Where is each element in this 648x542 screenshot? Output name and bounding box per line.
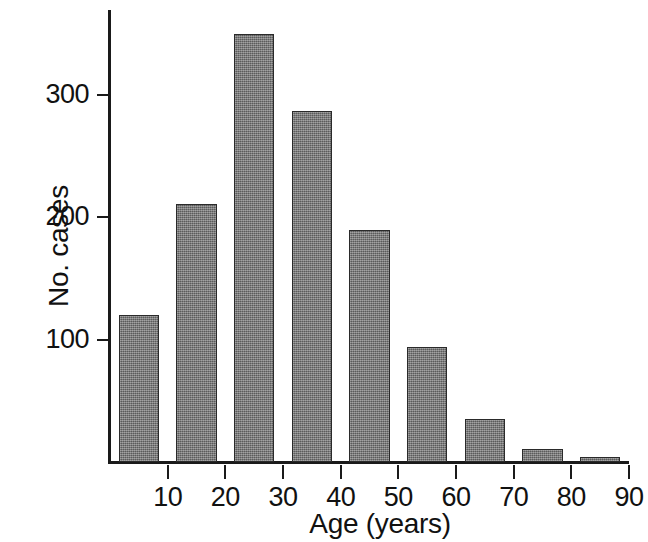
x-axis-tick-label: 80 — [543, 484, 599, 511]
bar — [292, 111, 332, 462]
x-axis-tick — [455, 465, 457, 479]
x-axis-tick — [224, 465, 226, 479]
y-axis-tick-label: 100 — [29, 326, 89, 353]
x-axis-tick — [282, 465, 284, 479]
x-axis-tick — [397, 465, 399, 479]
x-axis-tick — [628, 465, 630, 479]
bar — [407, 347, 447, 462]
y-axis-tick — [97, 339, 110, 341]
x-axis-tick — [570, 465, 572, 479]
x-axis-tick — [340, 465, 342, 479]
y-axis-tick — [97, 94, 110, 96]
x-axis-tick — [167, 465, 169, 479]
y-axis-tick-label: 300 — [29, 81, 89, 108]
x-axis-tick-label: 30 — [255, 484, 311, 511]
bar — [176, 204, 216, 462]
bar — [580, 457, 620, 462]
x-axis-tick-label: 20 — [197, 484, 253, 511]
x-axis-tick-label: 60 — [428, 484, 484, 511]
bar — [349, 230, 389, 462]
bar — [522, 449, 562, 462]
x-axis-tick-label: 10 — [140, 484, 196, 511]
x-axis-title: Age (years) — [215, 510, 545, 538]
x-axis-tick-label: 50 — [370, 484, 426, 511]
y-axis-tick — [97, 216, 110, 218]
x-axis-tick — [513, 465, 515, 479]
x-axis-tick-label: 90 — [601, 484, 648, 511]
bar — [465, 419, 505, 462]
y-axis-tick-label: 200 — [29, 203, 89, 230]
plot-area — [110, 10, 629, 462]
bar — [234, 34, 274, 462]
x-axis-tick-label: 70 — [486, 484, 542, 511]
x-axis-tick-label: 40 — [313, 484, 369, 511]
bar — [119, 315, 159, 462]
